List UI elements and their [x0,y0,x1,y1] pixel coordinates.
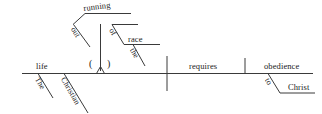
diagram-lines [0,0,322,114]
prep-object-christ-label: Christ [288,83,309,92]
placeholder-open-paren: ( [89,59,92,69]
gerund-step-line [73,14,131,25]
verb-label: requires [189,62,217,71]
sentence-diagram-canvas: running out of race the ( ) life The Chr… [0,0,322,114]
prep-object-race-label: race [128,35,143,44]
direct-object-label: obedience [264,62,299,71]
placeholder-close-paren: ) [107,59,110,69]
subject-label: life [36,62,48,71]
